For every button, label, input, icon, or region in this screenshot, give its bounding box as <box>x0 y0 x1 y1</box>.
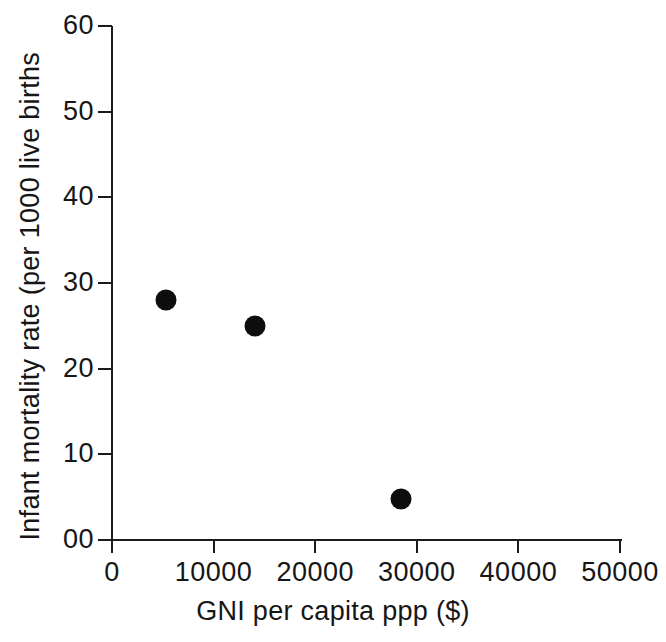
x-axis-tick-mark <box>619 539 621 553</box>
x-axis-tick-label: 50000 <box>581 557 659 587</box>
y-axis-line <box>111 26 113 542</box>
data-point <box>155 290 176 311</box>
x-axis-tick-label: 0 <box>104 557 120 587</box>
x-axis-tick-mark <box>517 539 519 553</box>
y-axis-tick-label: 60 <box>2 12 94 39</box>
y-axis-title: Infant mortality rate (per 1000 live bir… <box>15 71 46 541</box>
x-axis-tick-mark <box>213 539 215 553</box>
y-axis-tick-mark <box>98 539 112 541</box>
x-axis-tick-mark <box>111 539 113 553</box>
x-axis-tick-label: 30000 <box>378 557 456 587</box>
scatter-plot-figure: 60504030201000 0100002000030000400005000… <box>0 0 666 642</box>
x-axis-title: GNI per capita ppp ($) <box>0 596 666 627</box>
x-axis-tick-label: 40000 <box>480 557 558 587</box>
y-axis-tick-mark <box>98 25 112 27</box>
data-point <box>245 315 266 336</box>
x-axis-tick-label: 20000 <box>276 557 354 587</box>
x-axis-tick-label: 10000 <box>175 557 253 587</box>
y-axis-tick-mark <box>98 196 112 198</box>
y-axis-tick-mark <box>98 111 112 113</box>
x-axis-tick-mark <box>416 539 418 553</box>
x-axis-line <box>111 539 622 541</box>
data-point <box>390 488 411 509</box>
x-axis-tick-mark <box>314 539 316 553</box>
y-axis-tick-mark <box>98 368 112 370</box>
y-axis-tick-mark <box>98 282 112 284</box>
y-axis-tick-mark <box>98 453 112 455</box>
